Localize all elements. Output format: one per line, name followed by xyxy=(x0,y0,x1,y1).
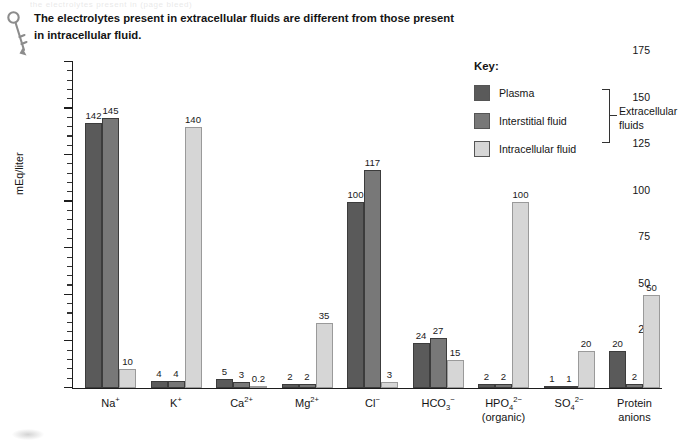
page-smudge xyxy=(12,429,44,440)
y-tick-major xyxy=(64,387,72,388)
y-tick-minor xyxy=(67,173,72,174)
y-tick-minor xyxy=(67,70,72,71)
bar-value-label: 0.2 xyxy=(242,373,276,384)
y-tick-major xyxy=(64,247,72,248)
bar-group: 242715 xyxy=(413,62,464,388)
y-tick-minor xyxy=(67,191,72,192)
y-tick-minor xyxy=(67,303,72,304)
bar-plasma xyxy=(609,351,626,388)
y-tick-minor xyxy=(67,182,72,183)
bar-value-label: 145 xyxy=(94,105,128,116)
bar-interstitial-fluid xyxy=(561,386,578,388)
bar-plasma xyxy=(544,386,561,388)
bar-value-label: 35 xyxy=(307,310,341,321)
bar-value-label: 100 xyxy=(504,189,538,200)
bar-intracellular-fluid xyxy=(578,351,595,388)
legend-bracket-stem xyxy=(610,115,617,116)
bar-intracellular-fluid xyxy=(512,202,529,388)
bar-value-label: 117 xyxy=(356,157,390,168)
bar-value-label: 50 xyxy=(635,282,669,293)
legend-item: Plasma xyxy=(474,81,674,104)
y-tick-minor xyxy=(67,145,72,146)
bar-group: 530.2 xyxy=(216,62,267,388)
y-tick-minor xyxy=(67,275,72,276)
y-tick-minor xyxy=(67,350,72,351)
legend-title: Key: xyxy=(474,60,674,72)
y-tick-minor xyxy=(67,257,72,258)
bar-interstitial-fluid xyxy=(495,384,512,388)
bar-intracellular-fluid xyxy=(250,386,267,388)
y-tick-minor xyxy=(67,89,72,90)
legend-bracket-label: Extracellular fluids xyxy=(619,104,682,132)
bar-group: 44140 xyxy=(151,62,202,388)
y-tick-minor xyxy=(67,135,72,136)
y-tick-major xyxy=(64,107,72,108)
bar-intracellular-fluid xyxy=(447,360,464,388)
bar-interstitial-fluid xyxy=(364,170,381,388)
bar-plasma xyxy=(413,343,430,388)
bar-interstitial-fluid xyxy=(626,384,643,388)
y-tick-minor xyxy=(67,312,72,313)
x-tick-label: Proteinanions xyxy=(587,396,682,424)
y-tick-major xyxy=(64,61,72,62)
bar-intracellular-fluid xyxy=(643,295,660,388)
y-tick-major xyxy=(64,294,72,295)
bar-interstitial-fluid xyxy=(102,118,119,388)
y-tick-major xyxy=(64,154,72,155)
legend-swatch xyxy=(474,113,490,129)
bar-plasma xyxy=(85,123,102,388)
bar-intracellular-fluid xyxy=(185,127,202,388)
y-tick-minor xyxy=(67,378,72,379)
bar-plasma xyxy=(478,384,495,388)
legend: Key: PlasmaInterstitial fluidIntracellul… xyxy=(474,60,674,165)
y-tick-minor xyxy=(67,210,72,211)
legend-bracket xyxy=(602,89,610,143)
y-tick-minor xyxy=(67,238,72,239)
y-tick-minor xyxy=(67,368,72,369)
bar-group: 14214510 xyxy=(85,62,136,388)
y-tick-minor xyxy=(67,126,72,127)
bar-intracellular-fluid xyxy=(119,369,136,388)
bar-group: 1001173 xyxy=(347,62,398,388)
bar-plasma xyxy=(282,384,299,388)
y-tick-minor xyxy=(67,229,72,230)
y-tick-minor xyxy=(67,359,72,360)
y-tick-minor xyxy=(67,331,72,332)
bar-group: 2235 xyxy=(282,62,333,388)
legend-swatch xyxy=(474,141,490,157)
bar-plasma xyxy=(347,202,364,388)
bar-value-label: 27 xyxy=(421,325,455,336)
y-tick-label: 175 xyxy=(620,44,650,56)
y-tick-minor xyxy=(67,219,72,220)
bar-interstitial-fluid xyxy=(299,384,316,388)
bar-value-label: 140 xyxy=(176,114,210,125)
y-tick-minor xyxy=(67,322,72,323)
bar-value-label: 15 xyxy=(438,347,472,358)
y-tick-minor xyxy=(67,80,72,81)
bar-intracellular-fluid xyxy=(316,323,333,388)
y-tick-minor xyxy=(67,117,72,118)
y-axis-title: mEq/liter xyxy=(13,152,25,195)
y-tick-major xyxy=(64,340,72,341)
y-tick-minor xyxy=(67,284,72,285)
y-tick-minor xyxy=(67,98,72,99)
legend-swatch xyxy=(474,85,490,101)
bar-value-label: 20 xyxy=(569,338,603,349)
legend-item: Intracellular fluid xyxy=(474,137,674,160)
bar-value-label: 20 xyxy=(601,338,635,349)
legend-label: Plasma xyxy=(499,87,534,99)
legend-label: Interstitial fluid xyxy=(499,115,567,127)
bar-interstitial-fluid xyxy=(168,381,185,388)
bar-interstitial-fluid xyxy=(430,338,447,388)
y-tick-minor xyxy=(67,266,72,267)
legend-label: Intracellular fluid xyxy=(499,143,576,155)
bar-value-label: 10 xyxy=(111,356,145,367)
y-tick-major xyxy=(64,200,72,201)
bar-plasma xyxy=(151,381,168,388)
bar-intracellular-fluid xyxy=(381,382,398,388)
bar-value-label: 3 xyxy=(373,369,407,380)
y-tick-minor xyxy=(67,163,72,164)
